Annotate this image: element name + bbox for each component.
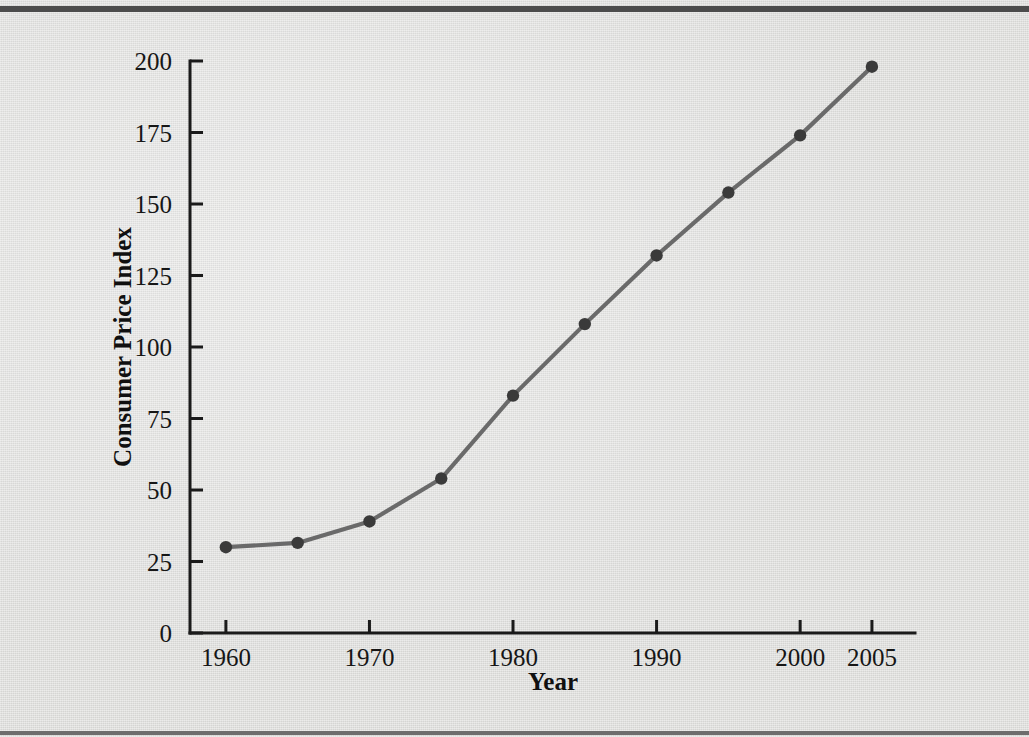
cpi-line-chart-figure: 0255075100125150175200 19601970198019902… [0,0,1029,737]
x-axis-tick-group [226,620,872,633]
data-point-marker [507,389,519,401]
data-point-marker [650,249,662,261]
x-axis-tick-label: 1970 [344,644,394,671]
y-axis-tick-label: 125 [135,263,173,290]
x-axis-tick-label: 1980 [488,644,538,671]
y-axis-tick-label: 0 [160,620,173,647]
chart-svg: 0255075100125150175200 19601970198019902… [0,0,1029,737]
data-point-marker [220,541,232,553]
x-axis-title: Year [528,668,578,695]
data-point-marker [794,129,806,141]
y-axis-tick-label: 100 [135,334,173,361]
data-point-marker [866,61,878,73]
y-axis-tick-label: 150 [135,191,173,218]
x-axis-tick-label-group: 196019701980199020002005 [201,644,897,671]
x-axis-tick-label: 2000 [775,644,825,671]
y-axis-tick-label: 25 [147,549,172,576]
data-point-marker [363,515,375,527]
y-axis-tick-group [190,61,203,633]
cpi-series-marker-group [220,61,878,554]
x-axis-tick-label: 1990 [632,644,682,671]
data-point-marker [722,186,734,198]
y-axis-tick-label: 50 [147,477,172,504]
y-axis-tick-label: 200 [135,48,173,75]
y-axis-title: Consumer Price Index [109,227,136,467]
y-axis-tick-label: 175 [135,120,173,147]
cpi-series-line [226,67,872,547]
y-axis-tick-label-group: 0255075100125150175200 [135,48,173,647]
data-point-marker [291,537,303,549]
y-axis-tick-label: 75 [147,406,172,433]
x-axis-tick-label: 2005 [847,644,897,671]
x-axis-tick-label: 1960 [201,644,251,671]
data-point-marker [579,318,591,330]
data-point-marker [435,472,447,484]
